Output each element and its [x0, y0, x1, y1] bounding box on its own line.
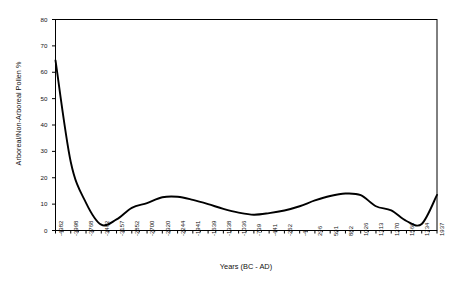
pollen-data-line	[56, 60, 438, 225]
pollen-line-chart: Arboreal/Non-Arboreal Pollen % Years (BC…	[0, 0, 449, 282]
plot-frame	[56, 20, 438, 231]
plot-area	[0, 0, 449, 282]
y-tick-marks	[52, 20, 56, 231]
